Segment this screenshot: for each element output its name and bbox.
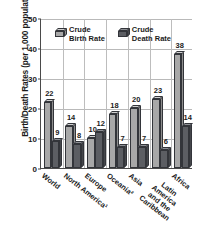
bar-side-face [81, 141, 84, 168]
birth-rate-swatch [55, 29, 66, 37]
legend-label: Crude Death Rate [132, 26, 171, 44]
bar [87, 138, 95, 168]
y-tick-label: 20 [28, 105, 37, 114]
bar [44, 102, 52, 168]
bar-value-label: 22 [45, 89, 53, 98]
y-tick-mark [38, 109, 41, 110]
bar-value-label: 9 [55, 128, 59, 137]
bar-value-label: 23 [154, 86, 162, 95]
bar [160, 150, 168, 168]
bar-value-label: 14 [67, 113, 75, 122]
bar-front-face [95, 132, 103, 168]
y-tick-label: 30 [28, 75, 37, 84]
bar-front-face [65, 126, 73, 168]
bar-chart: Birth/Death Rates (per 1,000 population)… [0, 0, 200, 233]
y-tick-label: 0 [33, 165, 37, 174]
y-tick-mark [38, 139, 41, 140]
chart-legend: Crude Birth RateCrude Death Rate [55, 26, 171, 44]
category-gridline [171, 19, 172, 168]
bar [174, 54, 182, 168]
bar [182, 126, 190, 168]
bar-value-label: 38 [175, 41, 183, 50]
y-tick-label: 10 [28, 135, 37, 144]
bar-value-label: 12 [97, 119, 105, 128]
bar-front-face [52, 141, 60, 168]
bar-value-label: 8 [77, 131, 81, 140]
bar [117, 147, 125, 168]
y-tick-label: 40 [28, 45, 37, 54]
bar-side-face [189, 123, 192, 168]
bar [109, 114, 117, 168]
bar-value-label: 6 [164, 137, 168, 146]
y-tick-mark [38, 169, 41, 170]
bar-front-face [44, 102, 52, 168]
bar [73, 144, 81, 168]
bar-front-face [152, 99, 160, 168]
bar-value-label: 18 [110, 101, 118, 110]
bar-side-face [59, 138, 62, 168]
bar [52, 141, 60, 168]
y-tick-label: 50 [28, 15, 37, 24]
bar-side-face [103, 129, 106, 168]
bar-value-label: 7 [120, 134, 124, 143]
bar [138, 147, 146, 168]
bar-front-face [87, 138, 95, 168]
y-tick-mark [38, 79, 41, 80]
bar-front-face [130, 108, 138, 168]
bar-front-face [138, 147, 146, 168]
bar [130, 108, 138, 168]
bar-side-face [146, 144, 149, 168]
bar [65, 126, 73, 168]
bar-value-label: 7 [142, 134, 146, 143]
legend-label: Crude Birth Rate [69, 26, 105, 44]
bar-side-face [168, 147, 171, 168]
bar-front-face [160, 150, 168, 168]
y-tick-mark [38, 49, 41, 50]
bar [95, 132, 103, 168]
legend-swatch-face [118, 31, 127, 37]
legend-swatch-face [55, 31, 64, 37]
bar-value-label: 20 [132, 95, 140, 104]
death-rate-swatch [118, 29, 129, 37]
bar-front-face [73, 144, 81, 168]
bar [152, 99, 160, 168]
bar-value-label: 14 [183, 113, 191, 122]
y-tick-mark [38, 19, 41, 20]
legend-item: Crude Birth Rate [55, 26, 105, 44]
legend-item: Crude Death Rate [118, 26, 171, 44]
legend-swatch-face [64, 28, 67, 37]
legend-swatch-face [127, 28, 130, 37]
bar-side-face [124, 144, 127, 168]
x-axis-label: World [40, 172, 61, 191]
